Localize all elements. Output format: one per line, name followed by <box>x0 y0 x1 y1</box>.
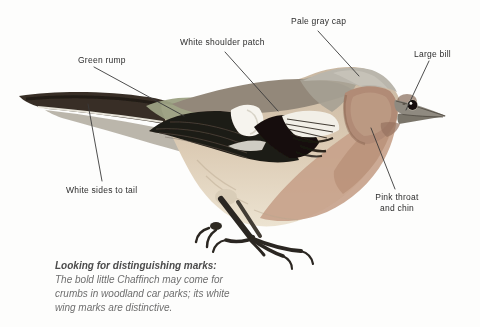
label-pale-gray-cap: Pale gray cap <box>291 16 346 27</box>
bird-bill <box>394 100 446 124</box>
bird-eye <box>407 99 418 110</box>
label-pink-throat-line2: and chin <box>368 203 426 214</box>
label-pink-throat-line1: Pink throat <box>368 192 426 203</box>
label-white-sides-to-tail: White sides to tail <box>66 185 137 196</box>
caption-line: wing marks are distinctive. <box>55 301 265 315</box>
caption-line: The bold little Chaffinch may come for <box>55 273 265 287</box>
label-white-shoulder-patch: White shoulder patch <box>180 37 265 48</box>
caption-heading: Looking for distinguishing marks: <box>55 259 265 273</box>
label-green-rump: Green rump <box>78 55 126 66</box>
bird-identification-diagram: Pale gray cap White shoulder patch Green… <box>0 0 480 327</box>
caption-line: crumbs in woodland car parks; its white <box>55 287 265 301</box>
caption-block: Looking for distinguishing marks: The bo… <box>55 259 265 315</box>
label-pink-throat-and-chin: Pink throat and chin <box>368 192 426 213</box>
label-large-bill: Large bill <box>414 49 451 60</box>
